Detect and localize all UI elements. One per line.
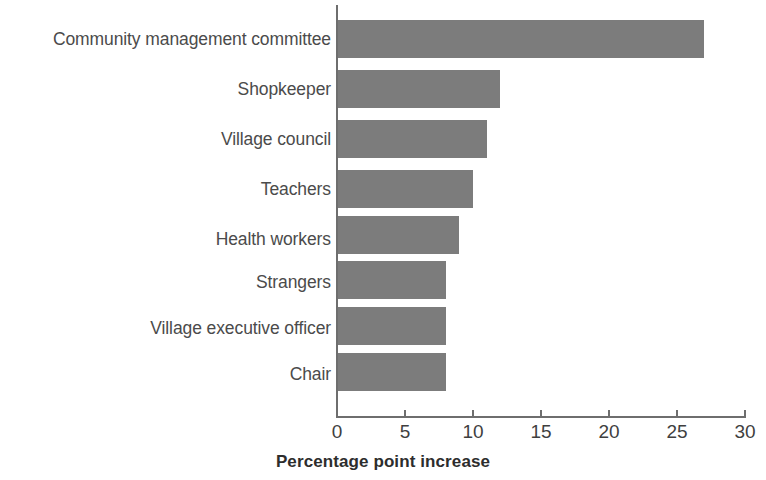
category-label-shopkeeper: Shopkeeper	[0, 79, 331, 99]
bar-teachers	[337, 170, 473, 208]
bar-shopkeeper	[337, 70, 500, 108]
x-axis-tick-label-15: 15	[530, 421, 551, 443]
category-label-strangers: Strangers	[0, 272, 331, 292]
x-axis-tick-15	[540, 410, 542, 418]
category-label-village-executive-officer: Village executive officer	[0, 318, 331, 338]
x-axis-tick-label-10: 10	[462, 421, 483, 443]
x-axis-tick-30	[744, 410, 746, 418]
x-axis-tick-label-5: 5	[400, 421, 411, 443]
category-label-health-workers: Health workers	[0, 229, 331, 249]
category-label-community-management-committee: Community management committee	[0, 29, 331, 49]
plot-area	[337, 0, 749, 420]
bar-village-council	[337, 120, 487, 158]
x-axis-tick-label-0: 0	[332, 421, 343, 443]
category-label-teachers: Teachers	[0, 179, 331, 199]
bar-chart: Community management committee Shopkeepe…	[0, 0, 766, 480]
x-axis-tick-10	[472, 410, 474, 418]
category-label-village-council: Village council	[0, 129, 331, 149]
bar-community-management-committee	[337, 20, 704, 58]
x-axis-tick-0	[336, 410, 338, 418]
x-axis-tick-25	[676, 410, 678, 418]
bar-chair	[337, 353, 446, 391]
x-axis-tick-label-20: 20	[598, 421, 619, 443]
x-axis-tick-label-30: 30	[734, 421, 755, 443]
bar-health-workers	[337, 216, 459, 254]
x-axis-tick-20	[608, 410, 610, 418]
x-axis-title: Percentage point increase	[0, 452, 766, 472]
x-axis-tick-label-25: 25	[666, 421, 687, 443]
bar-strangers	[337, 261, 446, 299]
category-axis-labels: Community management committee Shopkeepe…	[0, 0, 331, 420]
bar-village-executive-officer	[337, 307, 446, 345]
x-axis-tick-5	[404, 410, 406, 418]
y-axis-line	[336, 5, 338, 417]
category-label-chair: Chair	[0, 364, 331, 384]
